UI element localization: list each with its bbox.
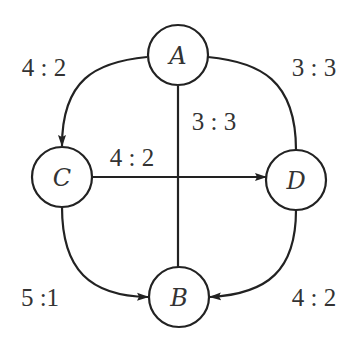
node-b: B xyxy=(149,267,209,327)
edge-label-c-to-d: 4 : 2 xyxy=(110,144,154,171)
node-c: C xyxy=(32,147,92,207)
edge-a-to-c xyxy=(62,57,147,146)
edge-a-to-d xyxy=(208,57,296,150)
node-c-label: C xyxy=(53,164,71,192)
edge-label-d-to-b: 4 : 2 xyxy=(292,284,336,311)
node-d-label: D xyxy=(285,167,305,195)
edge-label-a-to-c: 4 : 2 xyxy=(22,54,66,81)
node-b-label: B xyxy=(169,284,188,312)
node-d: D xyxy=(266,150,326,210)
edge-label-a-to-d: 3 : 3 xyxy=(292,54,336,81)
edge-c-to-b xyxy=(62,207,148,297)
edge-label-c-to-b: 5 :1 xyxy=(21,284,59,311)
node-a-label: A xyxy=(167,42,186,70)
edge-label-a-to-b: 3 : 3 xyxy=(192,108,236,135)
node-a: A xyxy=(148,25,208,85)
edge-d-to-b xyxy=(210,210,296,297)
graph-diagram: A C D B 4 : 2 3 : 3 3 : 3 4 : 2 5 :1 4 :… xyxy=(0,0,360,340)
